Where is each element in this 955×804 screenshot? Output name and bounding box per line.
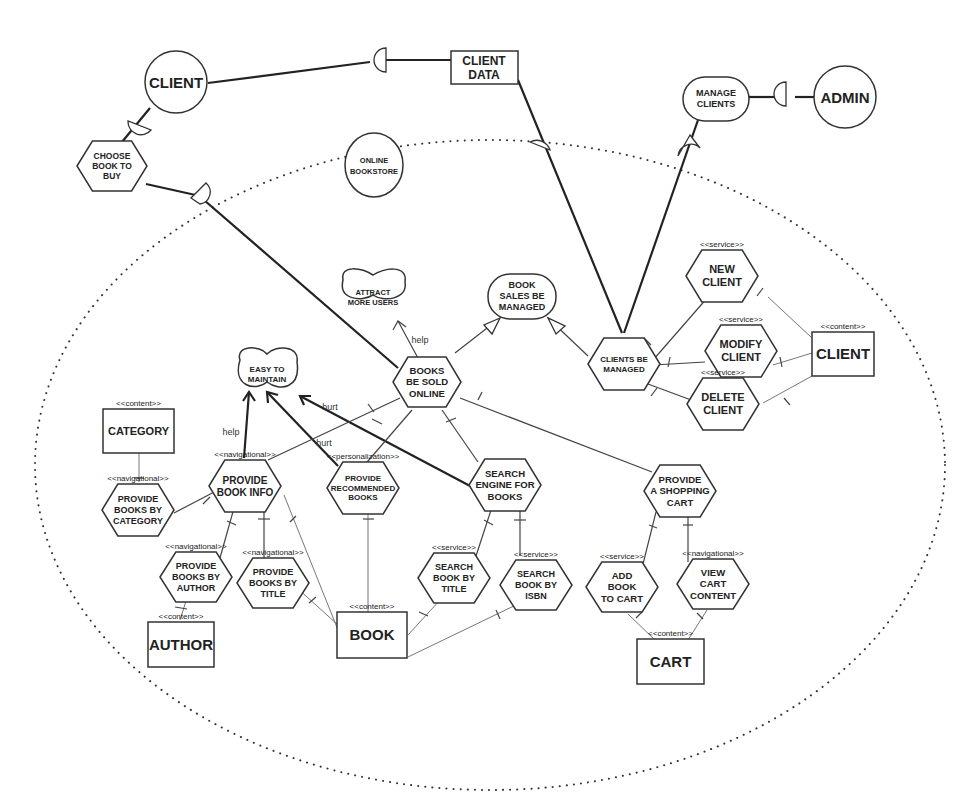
- svg-text:EASY TO: EASY TO: [250, 365, 285, 374]
- task-label: MODIFY: [720, 338, 763, 350]
- stereotype-label: <<service>>: [700, 240, 744, 249]
- task-books-by-author[interactable]: PROVIDEBOOKS BYAUTHOR<<navigational>>: [160, 542, 232, 602]
- decomp-byauthor: [218, 508, 234, 565]
- svg-text:MANAGED: MANAGED: [499, 302, 546, 312]
- stereotype-label: <<service>>: [432, 543, 476, 552]
- contrib-label-hurt-recommended: hurt: [316, 438, 332, 448]
- svg-text:ATTRACT: ATTRACT: [356, 288, 391, 297]
- task-label: CLIENT: [702, 276, 742, 288]
- task-label: CLIENT: [703, 404, 743, 416]
- task-label: PROVIDE: [222, 475, 267, 486]
- resource-client-res[interactable]: CLIENT<<content>>: [812, 322, 874, 376]
- goal-manage-clients[interactable]: MANAGE CLIENTS: [683, 77, 749, 121]
- task-label: CHOOSE: [94, 151, 131, 161]
- resource-label: CATEGORY: [108, 425, 170, 437]
- task-label: SEARCH: [485, 468, 525, 479]
- task-search-by-isbn[interactable]: SEARCHBOOK BYISBN<<service>>: [500, 550, 572, 610]
- resource-label: AUTHOR: [149, 636, 213, 653]
- resource-cart-res[interactable]: CART<<content>>: [637, 629, 704, 684]
- task-label: BOOKS BY: [249, 578, 297, 588]
- stereotype-label: <<navigational>>: [682, 549, 744, 558]
- link-modify-client: [773, 353, 812, 365]
- task-label: VIEW: [701, 567, 725, 578]
- task-label: BOOKS BY: [172, 572, 220, 582]
- task-label: BE SOLD: [406, 376, 448, 387]
- stereotype-label: <<content>>: [821, 322, 866, 331]
- task-label: CLIENT: [721, 351, 761, 363]
- stereotype-label: <<content>>: [159, 612, 204, 621]
- task-label: BOOKS: [410, 365, 445, 376]
- contrib-label-hurt-search: hurt: [322, 402, 338, 412]
- stereotype-label: <<service>>: [701, 368, 745, 377]
- contrib-label-help-easy: help: [222, 427, 239, 437]
- dep-marker-4: [530, 140, 550, 150]
- task-label: CONTENT: [690, 590, 736, 601]
- goal-book-sales-managed[interactable]: BOOK SALES BE MANAGED: [488, 274, 556, 319]
- task-label: ENGINE FOR: [475, 479, 534, 490]
- task-label: ISBN: [525, 591, 547, 601]
- dep-marker-6: [774, 82, 786, 106]
- svg-text:BOOKSTORE: BOOKSTORE: [350, 167, 398, 176]
- task-label: TITLE: [261, 589, 286, 599]
- actor-online-bookstore[interactable]: ONLINE BOOKSTORE: [345, 133, 403, 197]
- task-books-by-category[interactable]: PROVIDEBOOKS BYCATEGORY<<navigational>>: [102, 474, 174, 536]
- task-label: PROVIDE: [345, 474, 382, 483]
- resource-client-data[interactable]: CLIENT DATA: [451, 51, 518, 84]
- stereotype-label: <<content>>: [116, 399, 161, 408]
- decomp-search: [442, 410, 478, 462]
- task-books-sold[interactable]: BOOKSBE SOLDONLINE: [393, 357, 461, 407]
- stereotype-label: <<navigational>>: [242, 548, 304, 557]
- stereotype-label: <<content>>: [648, 629, 693, 638]
- svg-text:CLIENT: CLIENT: [149, 74, 203, 91]
- stereotype-label: <<navigational>>: [165, 542, 227, 551]
- softgoal-attract-users[interactable]: ATTRACT MORE USERS: [342, 269, 405, 307]
- task-choose-book[interactable]: CHOOSEBOOK TOBUY: [77, 141, 147, 191]
- link-searchisbn-book: [408, 603, 520, 657]
- task-label: BOOK BY: [515, 580, 557, 590]
- task-new-client[interactable]: NEWCLIENT<<service>>: [686, 240, 758, 302]
- diagram-canvas: help help hurt hurt CLIENT ADMIN ONLINE …: [0, 0, 955, 804]
- task-label: BOOKS: [348, 493, 378, 502]
- stereotype-label: <<personalization>>: [327, 452, 400, 461]
- task-add-to-cart[interactable]: ADDBOOKTO CART<<service>>: [586, 552, 658, 612]
- actor-admin[interactable]: ADMIN: [814, 66, 876, 128]
- svg-text:CLIENTS: CLIENTS: [697, 99, 736, 109]
- resource-label: BOOK: [350, 626, 395, 643]
- task-label: CLIENTS BE: [600, 355, 648, 364]
- softgoal-easy-maintain[interactable]: EASY TO MAINTAIN: [238, 348, 297, 387]
- link-searchtitle-book: [408, 600, 440, 635]
- svg-text:MANAGE: MANAGE: [696, 88, 736, 98]
- task-clients-managed[interactable]: CLIENTS BEMANAGED: [588, 338, 660, 390]
- resource-label: CLIENT: [816, 345, 870, 362]
- task-label: SEARCH: [517, 569, 555, 579]
- stereotype-label: <<service>>: [514, 550, 558, 559]
- task-search-by-title[interactable]: SEARCHBOOK BYTITLE<<service>>: [418, 543, 490, 603]
- task-label: RECOMMENDED: [331, 484, 396, 493]
- stereotype-label: <<service>>: [600, 552, 644, 561]
- task-label: BOOKS BY: [114, 505, 162, 515]
- task-shopping-cart[interactable]: PROVIDEA SHOPPINGCART: [644, 465, 716, 517]
- svg-text:ADMIN: ADMIN: [820, 89, 869, 106]
- actor-client[interactable]: CLIENT: [145, 51, 207, 113]
- dep-marker-1: [374, 48, 386, 72]
- svg-text:MORE USERS: MORE USERS: [348, 298, 398, 307]
- task-label: DELETE: [701, 391, 744, 403]
- resource-book-res[interactable]: BOOK<<content>>: [337, 602, 407, 658]
- resource-category-res[interactable]: CATEGORY<<content>>: [103, 399, 174, 453]
- task-label: CART: [667, 497, 694, 508]
- resource-label: CART: [650, 653, 692, 670]
- task-search-engine[interactable]: SEARCHENGINE FORBOOKS: [469, 459, 541, 511]
- svg-text:DATA: DATA: [468, 68, 500, 82]
- decomp-modify: [654, 362, 705, 365]
- task-label: A SHOPPING: [650, 485, 709, 496]
- task-label: ADD: [612, 570, 633, 581]
- dep-marker-3: [191, 183, 210, 204]
- task-label: BOOK TO: [92, 161, 132, 171]
- task-label: BOOKS: [488, 491, 523, 502]
- dep-client-clientdata: [208, 62, 370, 83]
- task-provide-recommended[interactable]: PROVIDERECOMMENDEDBOOKS<<personalization…: [327, 452, 400, 514]
- decomp-bycategory: [174, 490, 218, 513]
- resource-author-res[interactable]: AUTHOR<<content>>: [148, 612, 214, 667]
- task-books-by-title[interactable]: PROVIDEBOOKS BYTITLE<<navigational>>: [237, 548, 309, 608]
- stereotype-label: <<service>>: [719, 315, 763, 324]
